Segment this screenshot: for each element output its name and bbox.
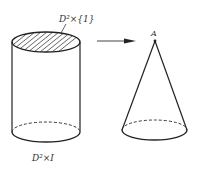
arrow [97, 39, 136, 44]
bottom-ellipse-back-dashed [12, 122, 80, 132]
cone-left-side [122, 41, 155, 130]
cylinder [0, 20, 98, 142]
apex-label: A [150, 29, 157, 38]
cone-right-side [155, 41, 187, 130]
bottom-ellipse-front [12, 132, 80, 142]
cone [122, 40, 187, 140]
cylinder-to-cone-diagram: D²×{1} D²×I A [0, 0, 197, 170]
arrow-head-icon [124, 39, 136, 44]
hatched-top-disk [0, 20, 98, 60]
cone-base-back-dashed [122, 120, 187, 130]
cylinder-label: D²×I [31, 153, 54, 163]
cone-base-front [122, 130, 187, 140]
top-disk-label: D²×{1} [58, 14, 95, 24]
label-leader-line [61, 24, 66, 33]
